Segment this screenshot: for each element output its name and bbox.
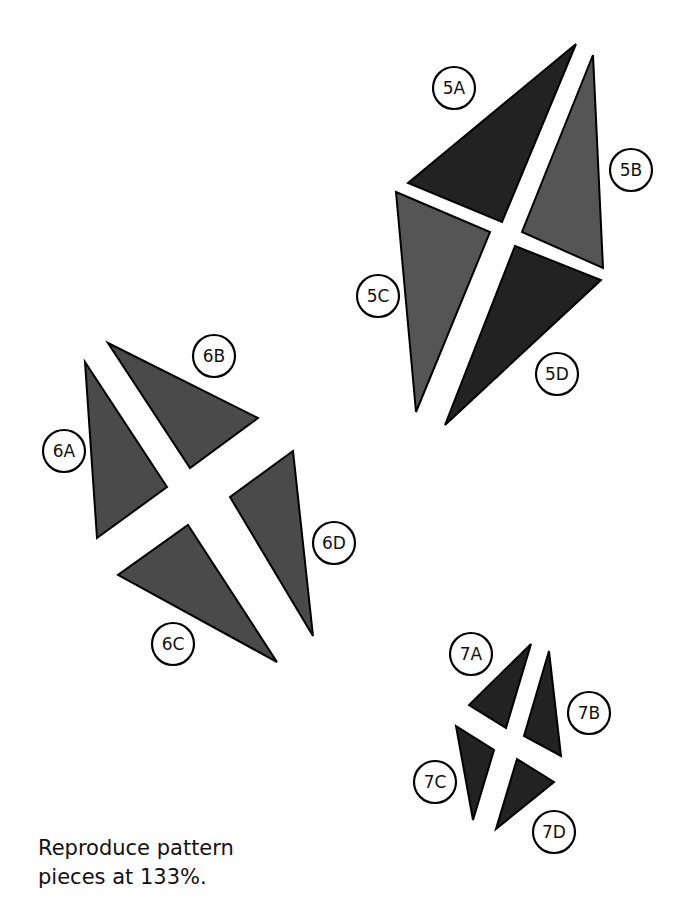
instruction-note: Reproduce pattern pieces at 133%. — [38, 834, 234, 892]
label-badge-5a: 5A — [433, 67, 475, 109]
instruction-line-2: pieces at 133%. — [38, 863, 234, 892]
label-text: 6C — [162, 634, 185, 654]
label-text: 5D — [545, 364, 569, 384]
label-badge-6b: 6B — [193, 335, 235, 377]
label-text: 5B — [620, 160, 642, 180]
label-text: 5A — [443, 78, 466, 98]
label-badge-6c: 6C — [152, 623, 194, 665]
label-text: 6A — [53, 441, 76, 461]
instruction-line-1: Reproduce pattern — [38, 834, 234, 863]
pattern-piece-7c — [456, 726, 494, 820]
label-badge-7d: 7D — [533, 811, 575, 853]
piece-group-6 — [85, 343, 313, 662]
label-text: 7B — [578, 703, 600, 723]
label-text: 5C — [367, 286, 390, 306]
pattern-pieces — [85, 44, 603, 829]
label-badge-5c: 5C — [357, 275, 399, 317]
label-badge-6a: 6A — [43, 430, 85, 472]
label-text: 7C — [424, 772, 447, 792]
label-text: 6B — [203, 346, 225, 366]
label-badge-5b: 5B — [610, 149, 652, 191]
label-text: 6D — [322, 533, 346, 553]
pattern-diagram: 5A5B5C5D6A6B6C6D7A7B7C7D — [0, 0, 698, 920]
label-text: 7D — [542, 822, 566, 842]
label-badge-7a: 7A — [450, 633, 492, 675]
pattern-piece-7b — [524, 651, 561, 756]
label-badge-6d: 6D — [313, 522, 355, 564]
label-text: 7A — [460, 644, 483, 664]
label-badge-5d: 5D — [536, 353, 578, 395]
pattern-piece-6c — [118, 525, 277, 662]
label-badge-7c: 7C — [414, 761, 456, 803]
label-badge-7b: 7B — [568, 692, 610, 734]
